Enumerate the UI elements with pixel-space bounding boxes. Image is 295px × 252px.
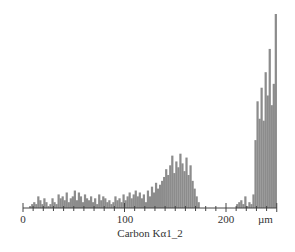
x-tick-label-200: 200 — [218, 213, 235, 225]
histogram-bar — [194, 189, 196, 208]
histogram-bar — [98, 194, 100, 208]
line-profile-chart — [0, 0, 295, 252]
histogram-bar — [159, 185, 161, 208]
histogram-bar — [45, 202, 47, 208]
histogram-bar — [137, 196, 139, 208]
histogram-bar — [133, 194, 135, 208]
histogram-bar — [157, 189, 159, 208]
histogram-bar — [106, 202, 108, 208]
histogram-bar — [96, 204, 98, 208]
histogram-bar — [238, 202, 240, 208]
histogram-bar — [110, 204, 112, 208]
histogram-bar — [191, 181, 193, 208]
histogram-bar — [80, 196, 82, 208]
histogram-bar — [185, 158, 187, 208]
histogram-bar — [171, 156, 173, 208]
histogram-bar — [86, 198, 88, 208]
histogram-bar — [116, 200, 118, 208]
histogram-bar — [131, 198, 133, 208]
histogram-bar — [149, 196, 151, 208]
histogram-bar — [88, 200, 90, 208]
histogram-bar — [135, 191, 137, 208]
histogram-bar — [78, 192, 80, 208]
histogram-bar — [163, 177, 165, 208]
histogram-bar — [108, 200, 110, 208]
histogram-bar — [256, 101, 258, 208]
histogram-bar — [74, 191, 76, 208]
histogram-bar — [261, 88, 263, 208]
x-tick-label-100: 100 — [117, 213, 134, 225]
histogram-bar — [242, 204, 244, 208]
histogram-bar — [118, 198, 120, 208]
histogram-bar — [189, 165, 191, 208]
histogram-bar — [248, 202, 250, 208]
histogram-bar — [151, 187, 153, 208]
histogram-bar — [269, 49, 271, 208]
histogram-bar — [129, 192, 131, 208]
histogram-bar — [273, 84, 275, 208]
histogram-bar — [198, 202, 200, 208]
histogram-bar — [275, 14, 277, 208]
histogram-bar — [139, 192, 141, 208]
histogram-bar — [254, 140, 256, 208]
histogram-bar — [183, 171, 185, 208]
histogram-bar — [55, 204, 57, 208]
x-tick-label-0: 0 — [20, 213, 26, 225]
histogram-bar — [120, 202, 122, 208]
histogram-bar — [141, 198, 143, 208]
histogram-bar — [58, 194, 60, 208]
histogram-bar — [37, 196, 39, 208]
histogram-bar — [265, 72, 267, 208]
histogram-bar — [84, 194, 86, 208]
histogram-bar — [161, 181, 163, 208]
histogram-bar — [167, 175, 169, 208]
histogram-bar — [60, 198, 62, 208]
histogram-bar — [35, 204, 37, 208]
histogram-bar — [127, 196, 129, 208]
histogram-bar — [181, 163, 183, 208]
histogram-bar — [271, 105, 273, 208]
histogram-bar — [177, 167, 179, 208]
histogram-bar — [155, 183, 157, 208]
histogram-bars — [29, 14, 277, 208]
histogram-bar — [250, 204, 252, 208]
histogram-bar — [147, 191, 149, 208]
histogram-bar — [76, 200, 78, 208]
histogram-bar — [252, 194, 254, 208]
histogram-bar — [153, 192, 155, 208]
histogram-bar — [100, 200, 102, 208]
x-axis-title: Carbon Kα1_2 — [117, 227, 182, 239]
histogram-bar — [143, 194, 145, 208]
histogram-bar — [179, 154, 181, 208]
histogram-bar — [39, 200, 41, 208]
histogram-bar — [267, 95, 269, 208]
histogram-bar — [70, 198, 72, 208]
histogram-bar — [240, 200, 242, 208]
histogram-bar — [49, 204, 51, 208]
histogram-bar — [165, 169, 167, 208]
histogram-bar — [68, 202, 70, 208]
histogram-bar — [187, 175, 189, 208]
histogram-bar — [173, 173, 175, 208]
histogram-bar — [66, 192, 68, 208]
histogram-bar — [169, 165, 171, 208]
histogram-bar — [175, 161, 177, 208]
histogram-bar — [258, 119, 260, 208]
x-unit-label: µm — [258, 213, 273, 225]
histogram-bar — [90, 196, 92, 208]
histogram-bar — [263, 121, 265, 208]
